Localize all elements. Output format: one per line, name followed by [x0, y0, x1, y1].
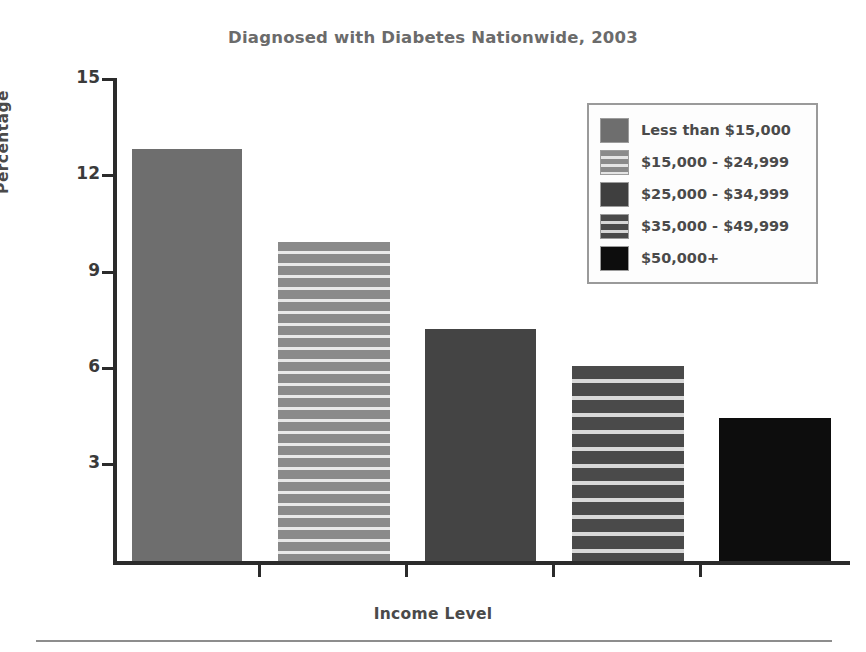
y-axis-tick — [102, 367, 114, 370]
y-axis-tick — [102, 271, 114, 274]
legend-item-label: $25,000 - $34,999 — [641, 186, 789, 202]
y-axis-tick-label: 12 — [40, 163, 100, 183]
legend-item-label: $35,000 - $49,999 — [641, 218, 789, 234]
legend-item: Less than $15,000 — [600, 114, 816, 146]
legend-swatch-icon — [600, 214, 629, 239]
x-axis-tick — [405, 564, 408, 577]
legend-swatch-icon — [600, 246, 629, 271]
y-axis-tick-label: 9 — [40, 260, 100, 280]
y-axis-tick — [102, 174, 114, 177]
y-axis-tick-label: 15 — [40, 67, 100, 87]
y-axis-tick-label: 6 — [40, 356, 100, 376]
x-axis-tick — [258, 564, 261, 577]
legend-item: $25,000 - $34,999 — [600, 178, 816, 210]
x-axis-line — [113, 561, 850, 565]
y-axis-line — [113, 78, 117, 565]
legend-swatch-icon — [600, 182, 629, 207]
y-axis-tick-label: 3 — [40, 452, 100, 472]
legend-swatch-icon — [600, 118, 629, 143]
bar-15000-24999 — [278, 242, 390, 561]
bar-less-than-15000 — [132, 149, 242, 561]
legend-item-label: Less than $15,000 — [641, 122, 791, 138]
x-axis-tick — [552, 564, 555, 577]
y-axis-tick — [102, 78, 114, 81]
chart-legend: Less than $15,000 $15,000 - $24,999 $25,… — [587, 103, 818, 284]
legend-item: $50,000+ — [600, 242, 816, 274]
x-axis-tick — [699, 564, 702, 577]
chart-title: Diagnosed with Diabetes Nationwide, 2003 — [0, 28, 866, 47]
legend-item-label: $15,000 - $24,999 — [641, 154, 789, 170]
x-axis-title: Income Level — [0, 605, 866, 623]
legend-swatch-icon — [600, 150, 629, 175]
bar-chart-figure: Diagnosed with Diabetes Nationwide, 2003… — [0, 0, 866, 652]
footer-divider — [36, 640, 832, 642]
bar-25000-34999 — [425, 329, 536, 561]
legend-item: $15,000 - $24,999 — [600, 146, 816, 178]
legend-item: $35,000 - $49,999 — [600, 210, 816, 242]
bar-35000-49999 — [572, 366, 684, 561]
y-axis-tick — [102, 463, 114, 466]
legend-item-label: $50,000+ — [641, 250, 719, 266]
bar-50000-plus — [719, 418, 831, 561]
y-axis-title: Percentage — [0, 32, 12, 252]
